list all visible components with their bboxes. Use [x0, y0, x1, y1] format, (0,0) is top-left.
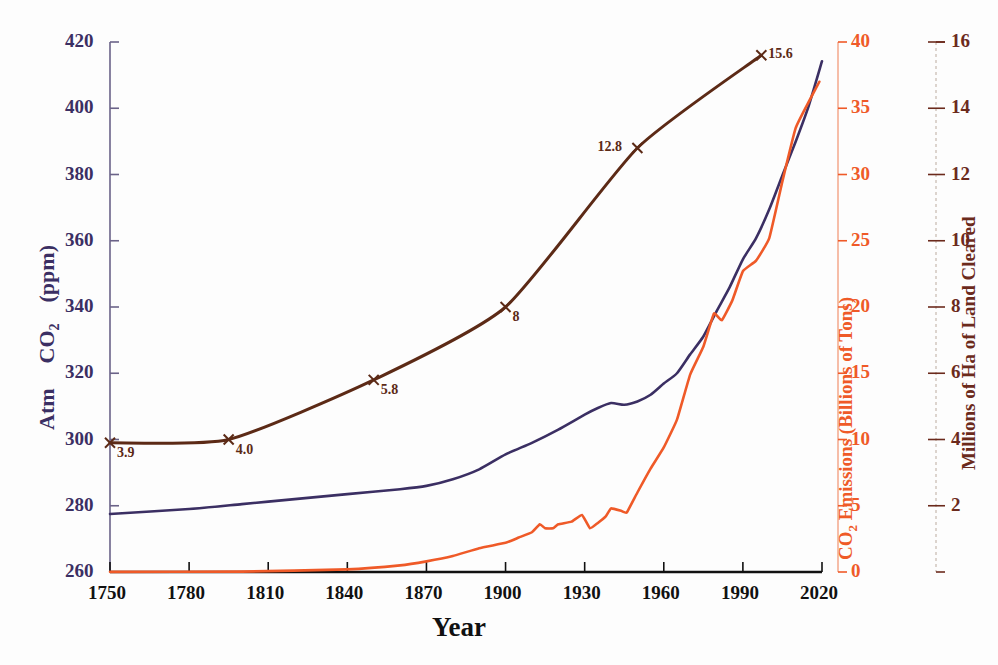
x-tick-1780: 1780	[167, 582, 205, 604]
y-tick-emissions-30: 30	[851, 163, 870, 185]
series-line-0	[110, 61, 822, 514]
data-marker-15.6	[756, 50, 766, 60]
x-tick-1750: 1750	[88, 582, 126, 604]
data-label-4.0: 4.0	[236, 442, 254, 458]
data-marker-8	[501, 302, 511, 312]
series-group	[110, 55, 822, 572]
left-axis-title-atm: Atm	[34, 388, 59, 430]
y-tick-left-260: 260	[65, 560, 94, 582]
y-tick-left-340: 340	[65, 295, 94, 317]
y-tick-land-12: 12	[951, 163, 970, 185]
y-tick-left-380: 380	[65, 163, 94, 185]
series-line-1	[110, 82, 819, 572]
y-tick-left-420: 420	[65, 30, 94, 52]
left-axis-title-co2: CO	[34, 330, 59, 363]
y-tick-land-2: 2	[951, 494, 961, 516]
land-cleared-axis-title: Millions of Ha of Land Cleared	[958, 216, 980, 470]
y-tick-emissions-0: 0	[851, 560, 861, 582]
x-tick-1870: 1870	[404, 582, 442, 604]
x-axis-title: Year	[432, 612, 486, 643]
x-tick-1930: 1930	[563, 582, 601, 604]
left-axis-title-co2-sub: 2	[47, 323, 62, 330]
data-label-15.6: 15.6	[768, 46, 793, 62]
data-label-3.9: 3.9	[117, 445, 135, 461]
data-marker-12.8	[632, 143, 642, 153]
data-label-12.8: 12.8	[597, 139, 622, 155]
chart-figure: 2602803003203403603804004201750178018101…	[0, 0, 998, 665]
x-tick-1900: 1900	[484, 582, 522, 604]
emissions-axis-title-co2-sub: 2	[845, 525, 860, 532]
y-tick-left-360: 360	[65, 229, 94, 251]
y-tick-left-400: 400	[65, 96, 94, 118]
emissions-axis-title-co2: CO	[835, 532, 856, 561]
x-tick-1990: 1990	[721, 582, 759, 604]
axes-group	[110, 42, 945, 572]
data-label-5.8: 5.8	[381, 382, 399, 398]
x-tick-2020: 2020	[800, 582, 838, 604]
data-label-8: 8	[513, 309, 520, 325]
left-axis-title: Atm CO2 (ppm)	[34, 245, 63, 430]
emissions-axis-title-rest: Emissions (Billions of Tons)	[835, 297, 856, 525]
y-tick-land-16: 16	[951, 30, 970, 52]
y-tick-emissions-35: 35	[851, 96, 870, 118]
y-tick-emissions-40: 40	[851, 30, 870, 52]
x-tick-1810: 1810	[246, 582, 284, 604]
marker-group	[105, 50, 766, 448]
y-tick-left-300: 300	[65, 428, 94, 450]
x-tick-1840: 1840	[325, 582, 363, 604]
y-tick-left-320: 320	[65, 361, 94, 383]
y-tick-land-14: 14	[951, 96, 970, 118]
data-marker-5.8	[369, 375, 379, 385]
y-tick-emissions-25: 25	[851, 229, 870, 251]
x-tick-1960: 1960	[642, 582, 680, 604]
left-axis-title-units: (ppm)	[34, 245, 59, 302]
y-tick-left-280: 280	[65, 494, 94, 516]
emissions-axis-title: CO2 Emissions (Billions of Tons)	[835, 297, 861, 560]
